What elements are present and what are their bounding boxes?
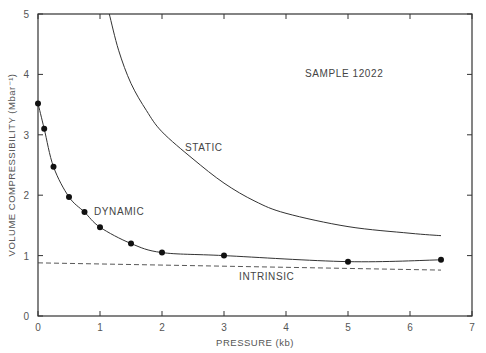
y-tick-label: 3 (23, 130, 29, 141)
data-point-marker (51, 164, 57, 170)
intrinsic-label: INTRINSIC (239, 271, 294, 282)
x-tick-label: 7 (469, 322, 475, 333)
sample-label: SAMPLE 12022 (305, 68, 383, 79)
x-tick-label: 1 (97, 322, 103, 333)
data-point-marker (35, 100, 41, 106)
data-point-marker (66, 194, 72, 200)
x-tick-label: 3 (221, 322, 227, 333)
data-point-marker (82, 209, 88, 215)
data-point-marker (221, 253, 227, 259)
y-tick-label: 0 (23, 311, 29, 322)
x-tick-label: 5 (345, 322, 351, 333)
series-static (109, 14, 441, 236)
series-layer (35, 14, 444, 270)
y-tick-label: 5 (23, 9, 29, 20)
series-intrinsic (38, 263, 441, 270)
compressibility-chart: 01234567 012345 PRESSURE (kb) VOLUME COM… (0, 0, 486, 353)
data-point-marker (128, 241, 134, 247)
x-tick-label: 4 (283, 322, 289, 333)
x-tick-label: 0 (35, 322, 41, 333)
data-point-marker (438, 257, 444, 263)
data-point-marker (345, 259, 351, 265)
x-tick-label: 2 (159, 322, 165, 333)
data-point-marker (159, 250, 165, 256)
y-tick-label: 1 (23, 251, 29, 262)
series-dynamic (35, 100, 444, 264)
x-tick-label: 6 (407, 322, 413, 333)
x-axis-title: PRESSURE (kb) (216, 337, 294, 348)
y-tick-label: 4 (23, 69, 29, 80)
data-point-marker (97, 224, 103, 230)
x-axis-ticks: 01234567 (35, 14, 475, 333)
dynamic-label: DYNAMIC (94, 206, 144, 217)
y-tick-label: 2 (23, 190, 29, 201)
data-point-marker (41, 126, 47, 132)
y-axis-title: VOLUME COMPRESSIBILITY (Mbar⁻¹) (6, 74, 17, 257)
static-label: STATIC (185, 142, 223, 153)
